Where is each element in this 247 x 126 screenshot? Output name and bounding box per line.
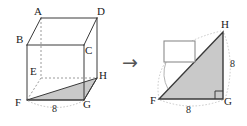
vertex-label-f-cube: F	[15, 97, 21, 108]
vertex-label-h-cube: H	[99, 70, 107, 81]
measure-arc-base	[160, 100, 223, 106]
vertex-label-g-triangle: G	[224, 96, 232, 107]
vertex-label-e: E	[30, 66, 37, 77]
vertex-label-a: A	[34, 6, 42, 17]
transform-arrow-icon: →	[122, 53, 138, 72]
answer-box-leader-line	[164, 62, 168, 89]
edge-ba	[27, 18, 41, 45]
vertex-label-f-triangle: F	[150, 95, 156, 106]
dimension-label-height: 8	[230, 59, 235, 69]
vertex-label-h-triangle: H	[221, 19, 229, 30]
vertex-label-c: C	[85, 45, 92, 56]
answer-box[interactable]	[164, 41, 195, 62]
vertex-label-b: B	[16, 34, 23, 45]
left-cube-group	[27, 18, 97, 108]
dimension-label-base: 8	[186, 105, 191, 115]
figure-canvas: A D B C E H F G 8 → F G H 8 8	[0, 0, 247, 126]
vertex-label-d: D	[97, 6, 105, 17]
vertex-label-g-cube: G	[83, 99, 91, 110]
dimension-label-cube-base: 8	[52, 104, 57, 114]
right-triangle-group	[158, 31, 230, 106]
edge-dc	[84, 18, 97, 45]
